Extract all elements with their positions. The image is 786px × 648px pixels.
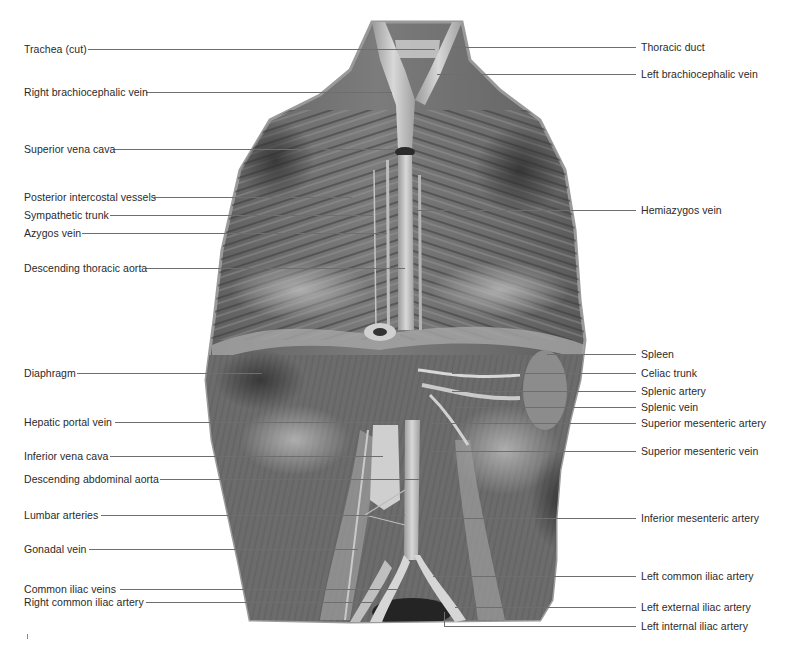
- label-left-external-iliac-artery: Left external iliac artery: [641, 601, 751, 613]
- label-thoracic-duct: Thoracic duct: [641, 41, 705, 53]
- label-celiac-trunk: Celiac trunk: [641, 367, 697, 379]
- label-superior-mesenteric-vein: Superior mesenteric vein: [641, 445, 758, 457]
- label-inferior-vena-cava: Inferior vena cava: [24, 450, 108, 462]
- label-azygos-vein: Azygos vein: [24, 227, 81, 239]
- label-gonadal-vein: Gonadal vein: [24, 543, 86, 555]
- label-diaphragm: Diaphragm: [24, 367, 76, 379]
- corner-mark: [27, 634, 28, 639]
- label-hepatic-portal-vein: Hepatic portal vein: [24, 416, 112, 428]
- label-descending-abdominal-aorta: Descending abdominal aorta: [24, 473, 159, 485]
- label-spleen: Spleen: [641, 348, 674, 360]
- label-sympathetic-trunk: Sympathetic trunk: [24, 209, 109, 221]
- label-left-internal-iliac-artery: Left internal iliac artery: [641, 620, 748, 632]
- label-right-brachiocephalic-vein: Right brachiocephalic vein: [24, 86, 148, 98]
- label-left-brachiocephalic-vein: Left brachiocephalic vein: [641, 68, 758, 80]
- label-superior-mesenteric-artery: Superior mesenteric artery: [641, 417, 766, 429]
- label-trachea-cut: Trachea (cut): [24, 43, 87, 55]
- anatomy-figure: Trachea (cut)Right brachiocephalic veinS…: [0, 0, 786, 648]
- label-splenic-vein: Splenic vein: [641, 401, 698, 413]
- label-left-common-iliac-artery: Left common iliac artery: [641, 570, 754, 582]
- label-hemiazygos-vein: Hemiazygos vein: [641, 204, 722, 216]
- label-common-iliac-veins: Common iliac veins: [24, 583, 116, 595]
- label-descending-thoracic-aorta: Descending thoracic aorta: [24, 262, 147, 274]
- label-posterior-intercostal-vessels: Posterior intercostal vessels: [24, 191, 156, 203]
- label-lumbar-arteries: Lumbar arteries: [24, 509, 98, 521]
- label-superior-vena-cava: Superior vena cava: [24, 143, 115, 155]
- label-splenic-artery: Splenic artery: [641, 385, 706, 397]
- label-right-common-iliac-artery: Right common iliac artery: [24, 596, 144, 608]
- label-inferior-mesenteric-artery: Inferior mesenteric artery: [641, 512, 759, 524]
